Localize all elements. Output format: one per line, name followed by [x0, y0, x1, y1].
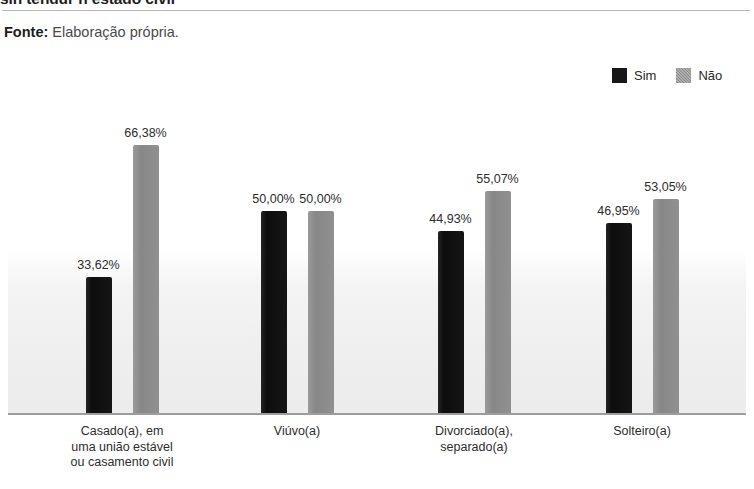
bar-sim [606, 223, 632, 413]
legend-item-sim: Sim [612, 68, 656, 83]
bar-nao [308, 211, 334, 413]
header-divider [2, 10, 750, 11]
bar-sim [86, 277, 112, 413]
legend-item-label: Sim [634, 68, 656, 83]
legend-item-nao: Não [676, 68, 722, 83]
category-label: Divorciado(a), separado(a) [399, 424, 549, 455]
bar-nao [133, 145, 159, 413]
chart-legend: Sim Não [612, 68, 722, 83]
bar-nao [653, 199, 679, 413]
bar-value-label: 53,05% [636, 180, 696, 194]
bar-nao [485, 191, 511, 413]
bar-value-label: 55,07% [468, 172, 528, 186]
gray-hatched-square-icon [676, 68, 691, 83]
category-label: Viúvo(a) [222, 424, 372, 440]
category-label: Casado(a), em uma união estável ou casam… [47, 424, 197, 471]
x-axis-line [8, 413, 746, 415]
source-line: Fonte: Elaboração própria. [4, 23, 179, 42]
bar-sim [438, 231, 464, 413]
source-label: Fonte: [4, 24, 48, 40]
bar-value-label: 33,62% [69, 258, 129, 272]
bar-value-label: 50,00% [291, 192, 351, 206]
source-value: Elaboração própria. [52, 24, 179, 40]
bar-sim [261, 211, 287, 413]
bar-value-label: 44,93% [421, 212, 481, 226]
category-label: Solteiro(a) [567, 424, 717, 440]
bar-value-label: 66,38% [116, 126, 176, 140]
page-title: sin tendur n estado civil [0, 0, 754, 9]
bar-value-label: 46,95% [589, 204, 649, 218]
legend-item-label: Não [698, 68, 722, 83]
figure-page: sin tendur n estado civil Fonte: Elabora… [0, 0, 754, 489]
black-square-icon [612, 68, 627, 83]
